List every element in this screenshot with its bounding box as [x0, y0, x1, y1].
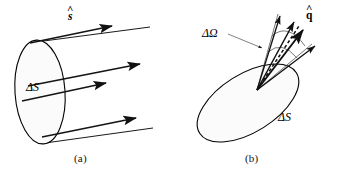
direction-label-s-hat-a: ^ s [68, 10, 72, 22]
caption-a: (a) [74, 152, 87, 164]
surface-label-delta-s-b: ΔS [278, 110, 291, 125]
solid-angle-label-delta-omega: ΔΩ [202, 26, 218, 41]
radiometry-figure: ^ s ΔS (a) ΔΩ ^ q ΔS (b) [0, 0, 339, 176]
surface-element-disk-b [184, 48, 311, 158]
surface-label-delta-s-a: ΔS [26, 80, 39, 95]
tube-bottom-edge-a [45, 128, 153, 143]
solid-angle-leader-line [228, 34, 262, 48]
ray-arrow-a-1 [30, 26, 112, 43]
direction-label-q-hat-b: ^ q [306, 9, 312, 21]
figure-canvas [0, 0, 339, 176]
caption-b: (b) [245, 152, 258, 164]
